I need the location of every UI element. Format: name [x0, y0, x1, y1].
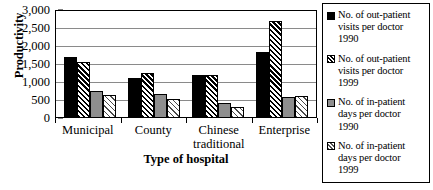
bar[interactable] — [205, 75, 218, 117]
chart-legend: No. of out-patient visits per doctor 199… — [322, 3, 430, 183]
bar[interactable] — [269, 21, 282, 117]
bar-chart-figure: Productivity 05001,0001,5002,0002,5003,0… — [0, 0, 433, 190]
x-axis-tick-mark — [317, 118, 318, 123]
legend-item[interactable]: No. of in-patient days per doctor 1999 — [327, 140, 426, 177]
legend-item[interactable]: No. of in-patient days per doctor 1990 — [327, 96, 426, 133]
legend-swatch-icon — [327, 99, 335, 107]
legend-swatch-icon — [327, 142, 335, 150]
y-axis-tick-label: 1,000 — [8, 76, 50, 89]
x-axis-category-label: Enterprise — [252, 123, 318, 151]
bar[interactable] — [77, 62, 90, 117]
legend-label: No. of in-patient days per doctor 1999 — [338, 140, 405, 177]
y-axis-tick-label: 500 — [8, 94, 50, 107]
bar-group — [64, 11, 116, 117]
plot-area — [55, 10, 317, 118]
legend-swatch-icon — [327, 55, 335, 63]
x-axis-tick-labels: MunicipalCountyChinese traditionalEnterp… — [55, 123, 317, 151]
x-axis-category-label: Municipal — [55, 123, 121, 151]
bar[interactable] — [282, 97, 295, 117]
legend-label: No. of out-patient visits per doctor 199… — [338, 9, 410, 46]
bar-group — [256, 11, 308, 117]
y-axis-tick-label: 1,500 — [8, 58, 50, 71]
y-axis-tick-label: 2,000 — [8, 40, 50, 53]
legend-label: No. of in-patient days per doctor 1990 — [338, 96, 405, 133]
bar[interactable] — [64, 57, 77, 117]
bar[interactable] — [167, 99, 180, 117]
bar-series-container — [56, 11, 316, 117]
bar[interactable] — [192, 75, 205, 117]
legend-swatch-icon — [327, 12, 335, 20]
legend-item[interactable]: No. of out-patient visits per doctor 199… — [327, 9, 426, 46]
legend-item[interactable]: No. of out-patient visits per doctor 199… — [327, 53, 426, 90]
bar-group — [128, 11, 180, 117]
bar[interactable] — [218, 103, 231, 117]
y-axis-tick-label: 2,500 — [8, 22, 50, 35]
bar[interactable] — [231, 107, 244, 117]
bar[interactable] — [103, 95, 116, 117]
x-axis-category-label: Chinese traditional — [186, 123, 252, 151]
y-axis-tick-label: 0 — [8, 112, 50, 125]
bar[interactable] — [128, 78, 141, 117]
y-axis-tick-labels: 05001,0001,5002,0002,5003,000 — [8, 10, 50, 118]
x-axis-title: Type of hospital — [55, 152, 317, 167]
x-axis-category-label: County — [121, 123, 187, 151]
y-axis-tick-label: 3,000 — [8, 4, 50, 17]
bar[interactable] — [154, 94, 167, 117]
bar[interactable] — [295, 96, 308, 117]
legend-label: No. of out-patient visits per doctor 199… — [338, 53, 410, 90]
bar[interactable] — [141, 73, 154, 117]
bar-group — [192, 11, 244, 117]
bar[interactable] — [90, 91, 103, 117]
bar[interactable] — [256, 52, 269, 117]
